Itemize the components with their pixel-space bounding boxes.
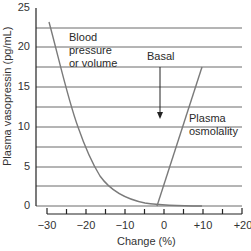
- y-tick-15: 15: [14, 80, 30, 92]
- x-axis: [47, 208, 242, 214]
- blood-pressure-label-line3: or volume: [69, 57, 117, 70]
- x-tick-minus20: −20: [71, 219, 101, 231]
- y-tick-5: 5: [14, 160, 30, 172]
- x-tick-minus30: −30: [32, 219, 62, 231]
- y-tick-25: 25: [14, 1, 30, 13]
- osmolality-label-line1: Plasma: [189, 112, 226, 125]
- osmolality-label-line2: osmolality: [189, 125, 238, 138]
- basal-label: Basal: [147, 50, 175, 63]
- x-tick-0: 0: [149, 219, 179, 231]
- blood-pressure-label-line2: pressure: [69, 44, 112, 57]
- y-tick-20: 20: [14, 40, 30, 52]
- basal-arrow-icon: [157, 67, 163, 119]
- blood-pressure-label-line1: Blood: [69, 31, 97, 44]
- x-tick-minus10: −10: [110, 219, 140, 231]
- x-axis-title: Change (%): [117, 235, 176, 247]
- x-tick-plus10: +10: [188, 219, 218, 231]
- x-tick-plus20: +20: [228, 219, 251, 231]
- y-tick-0: 0: [14, 199, 30, 211]
- y-tick-10: 10: [14, 120, 30, 132]
- y-axis-title: Plasma vasopressin (pg/mL): [1, 27, 13, 166]
